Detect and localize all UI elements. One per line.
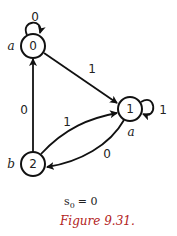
initial-state-value: = 0 [78, 195, 98, 208]
edge-2-1-label: 1 [63, 115, 71, 129]
node-2-label: 2 [29, 157, 37, 171]
node-1-output: a [127, 125, 134, 139]
edge-0-1-label: 1 [88, 62, 96, 76]
node-1-label: 1 [126, 102, 134, 116]
edge-1-2 [47, 120, 124, 167]
figure-caption: Figure 9.31. [59, 214, 135, 228]
edge-2-0-label: 0 [20, 103, 28, 117]
state-node-2: 2 [21, 152, 45, 176]
state-node-1: 1 [118, 97, 142, 121]
edge-1-1-label: 1 [159, 103, 167, 117]
edge-0-0-label: 0 [31, 10, 39, 24]
node-2-output: b [7, 157, 15, 171]
state-node-0: 0 [21, 34, 45, 58]
initial-state-equation: s0= 0 [64, 195, 97, 210]
initial-state-subscript: 0 [70, 201, 75, 210]
node-0-label: 0 [29, 39, 37, 53]
node-0-output: a [7, 39, 14, 53]
state-diagram: 0 a 0 1 a 1 2 b 1 0 1 0 s0= 0 Figure 9.3… [0, 0, 177, 236]
edge-0-1 [44, 53, 117, 103]
edge-1-2-label: 0 [103, 147, 111, 161]
svg-text:s0= 0: s0= 0 [64, 195, 97, 210]
